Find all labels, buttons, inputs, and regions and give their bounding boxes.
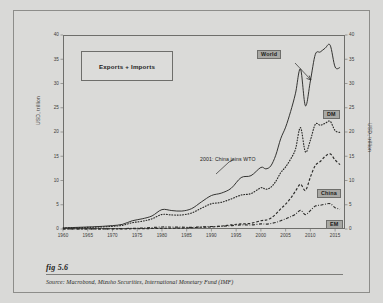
- y-axis-left-title: USD, trillion: [35, 96, 41, 125]
- x-tick-label: 1995: [223, 233, 249, 238]
- y-tick-label-left: 25: [47, 105, 59, 110]
- x-tick-label: 1990: [198, 233, 224, 238]
- series-tag-world: World: [257, 50, 281, 59]
- caption-divider: [46, 274, 343, 275]
- y-tick-label-right: 25: [349, 105, 363, 110]
- y-tick-label-right: 20: [349, 129, 363, 134]
- y-axis-right-ticks: [345, 35, 348, 229]
- x-tick-label: 1980: [149, 233, 175, 238]
- series-tag-em: EM: [326, 220, 343, 229]
- y-tick-label-right: 40: [349, 32, 363, 37]
- figure-frame: 0510152025303540 0510152025303540 196019…: [13, 10, 370, 293]
- exports-imports-label: Exports + Imports: [99, 63, 155, 70]
- x-tick-label: 2000: [248, 233, 274, 238]
- y-tick-label-left: 35: [47, 57, 59, 62]
- series-tag-dm: DM: [323, 110, 340, 119]
- x-tick-label: 1985: [174, 233, 200, 238]
- series-path-china: [63, 154, 340, 229]
- y-tick-label-left: 40: [47, 32, 59, 37]
- y-tick-label-left: 30: [47, 81, 59, 86]
- exports-imports-box: Exports + Imports: [81, 51, 173, 81]
- x-tick-label: 1970: [99, 233, 125, 238]
- y-tick-label-right: 15: [349, 154, 363, 159]
- source-prefix: Source:: [46, 279, 65, 285]
- y-tick-label-right: 0: [349, 226, 363, 231]
- y-tick-label-right: 35: [349, 57, 363, 62]
- world-arrow-leader: [295, 63, 311, 80]
- source-text: Macrobond, Mizuho Securities, Internatio…: [66, 279, 233, 285]
- x-tick-label: 1975: [124, 233, 150, 238]
- x-tick-label: 1965: [75, 233, 101, 238]
- y-tick-label-left: 5: [47, 202, 59, 207]
- y-tick-label-left: 0: [47, 226, 59, 231]
- y-tick-label-right: 5: [349, 202, 363, 207]
- y-tick-label-left: 15: [47, 154, 59, 159]
- x-tick-label: 2015: [322, 233, 348, 238]
- wto-annotation-text: 2001: China joins WTO: [200, 156, 256, 162]
- y-axis-left-ticks: [61, 35, 64, 229]
- x-tick-label: 2005: [273, 233, 299, 238]
- series-path-em: [63, 203, 340, 228]
- y-tick-label-left: 10: [47, 178, 59, 183]
- x-tick-label: 1960: [50, 233, 76, 238]
- x-tick-label: 2010: [297, 233, 323, 238]
- y-tick-label-left: 20: [47, 129, 59, 134]
- figure-page: 0510152025303540 0510152025303540 196019…: [0, 0, 383, 303]
- y-tick-label-right: 10: [349, 178, 363, 183]
- figure-number: fig 5.6: [46, 263, 346, 272]
- source-line: Source: Macrobond, Mizuho Securities, In…: [46, 279, 346, 285]
- y-tick-label-right: 30: [349, 81, 363, 86]
- series-tag-china: China: [317, 189, 341, 198]
- y-axis-right-title: USD, trillion: [367, 123, 373, 152]
- caption-area: fig 5.6 Source: Macrobond, Mizuho Securi…: [46, 263, 346, 285]
